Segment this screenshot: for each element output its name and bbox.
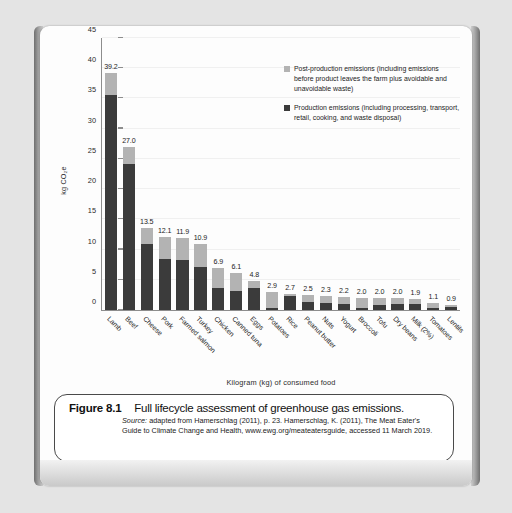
figure-title: Full lifecycle assessment of greenhouse … (134, 402, 404, 414)
y-tick-label: 30 (70, 116, 96, 125)
bar-value-label: 2.2 (339, 287, 349, 295)
legend-swatch (284, 105, 290, 111)
page-edge-right (471, 26, 480, 486)
bar-value-label: 2.0 (357, 288, 367, 296)
y-tick-label: 45 (70, 26, 96, 34)
book-page: 051015202530354045 kg CO₂e 39.227.013.51… (40, 26, 472, 486)
stacked-bar (194, 244, 206, 310)
stacked-bar (176, 238, 188, 310)
source-text: adapted from Hamerschlag (2011), p. 23. … (122, 416, 432, 435)
figure-caption-box: Figure 8.1 Full lifecycle assessment of … (54, 394, 454, 462)
legend-item: Post-production emissions (including emi… (284, 64, 460, 94)
bar-value-label: 1.1 (428, 293, 438, 301)
stacked-bar (123, 147, 135, 310)
bar-segment-production (212, 288, 224, 310)
bar-segment-post-production (338, 297, 350, 304)
bar-column: 10.9 (192, 38, 210, 310)
stacked-bar (427, 303, 439, 310)
bar-value-label: 2.5 (303, 285, 313, 293)
x-label-cell: Eggs (245, 314, 263, 382)
bar-value-label: 2.0 (375, 288, 385, 296)
x-label-cell: Rice (281, 314, 299, 382)
bar-segment-post-production (123, 147, 135, 164)
bar-column: 11.9 (174, 38, 192, 310)
x-tick-label: Beef (124, 315, 139, 330)
stacked-bar (212, 268, 224, 310)
x-label-cell: Broccoli (353, 314, 371, 382)
bar-value-label: 4.8 (249, 271, 259, 279)
x-label-cell: Milk (2%) (406, 314, 424, 382)
bar-value-label: 6.9 (214, 258, 224, 266)
stacked-bar (391, 298, 403, 310)
bar-value-label: 12.1 (158, 227, 171, 235)
bar-segment-production (302, 302, 314, 310)
stacked-bar (141, 228, 153, 310)
x-axis-labels: LambBeefCheesePorkFarmed salmonTurkeyChi… (102, 314, 460, 382)
stacked-bar (105, 73, 117, 310)
bar-segment-production (105, 95, 117, 310)
bar-value-label: 13.5 (140, 218, 153, 226)
bar-column: 6.9 (209, 38, 227, 310)
x-tick-label: Lentils (446, 315, 465, 334)
stacked-bar (409, 299, 421, 310)
x-label-cell: Chicken (209, 314, 227, 382)
stacked-bar (230, 273, 242, 310)
bar-value-label: 2.3 (321, 286, 331, 294)
bar-column: 13.5 (138, 38, 156, 310)
y-tick-label: 35 (70, 85, 96, 94)
bar-segment-production (159, 259, 171, 310)
x-label-cell: Yogurt (335, 314, 353, 382)
legend-label: Post-production emissions (including emi… (294, 64, 460, 94)
bar-value-label: 2.7 (285, 284, 295, 292)
x-label-cell: Dry beans (389, 314, 407, 382)
stacked-bar (320, 296, 332, 310)
bar-segment-post-production (159, 237, 171, 259)
bar-value-label: 6.1 (232, 263, 242, 271)
x-label-cell: Lamb (102, 314, 120, 382)
x-tick-label: Rice (285, 315, 300, 330)
bar-segment-post-production (230, 273, 242, 291)
bar-column: 27.0 (120, 38, 138, 310)
y-tick-label: 5 (70, 267, 96, 276)
bar-segment-post-production (356, 298, 368, 308)
bar-value-label: 2.0 (393, 288, 403, 296)
x-label-cell: Canned tuna (227, 314, 245, 382)
book-page-scan: 051015202530354045 kg CO₂e 39.227.013.51… (0, 0, 512, 513)
bar-column: 2.9 (263, 38, 281, 310)
bar-column: 12.1 (156, 38, 174, 310)
bar-segment-production (141, 244, 153, 310)
x-label-cell: Lentils (442, 314, 460, 382)
y-tick-label: 40 (70, 55, 96, 64)
y-tick-label: 15 (70, 206, 96, 215)
x-axis-title: Kilogram (kg) of consumed food (102, 378, 460, 387)
caption-heading: Figure 8.1 Full lifecycle assessment of … (55, 395, 453, 414)
bar-column: 6.1 (227, 38, 245, 310)
bar-value-label: 1.9 (411, 289, 421, 297)
stacked-bar (159, 237, 171, 310)
x-tick-label: Pork (160, 315, 175, 330)
bar-segment-post-production (194, 244, 206, 267)
bar-segment-post-production (320, 296, 332, 303)
bar-segment-post-production (176, 238, 188, 260)
bar-segment-production (176, 260, 188, 310)
stacked-bar (356, 298, 368, 310)
page-bottom-shadow (40, 460, 472, 486)
legend-item: Production emissions (including processi… (284, 103, 460, 123)
figure-source: Source: adapted from Hamerschlag (2011),… (122, 416, 441, 437)
bar-segment-production (248, 288, 260, 310)
bar-value-label: 39.2 (104, 63, 117, 71)
bar-segment-post-production (266, 292, 278, 308)
bar-segment-post-production (248, 281, 260, 288)
x-label-cell: Nuts (317, 314, 335, 382)
bar-segment-production (194, 267, 206, 310)
bar-segment-production (284, 296, 296, 311)
y-tick-label: 25 (70, 146, 96, 155)
bar-segment-production (123, 164, 135, 310)
bar-value-label: 10.9 (194, 234, 207, 242)
source-label: Source: (122, 416, 147, 425)
bar-segment-production (230, 291, 242, 310)
x-label-cell: Pork (156, 314, 174, 382)
legend-swatch (284, 66, 290, 72)
x-label-cell: Peanut butter (299, 314, 317, 382)
chart-legend: Post-production emissions (including emi… (284, 64, 460, 132)
